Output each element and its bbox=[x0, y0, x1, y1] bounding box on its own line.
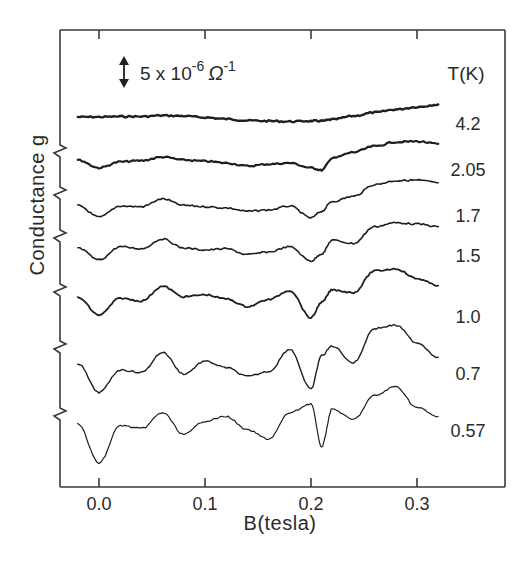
temperature-label: 1.7 bbox=[455, 206, 480, 226]
conductance-chart: 0.00.10.20.3 B(tesla) Conductance g 5 x … bbox=[0, 0, 529, 571]
temperature-label: 0.7 bbox=[455, 364, 480, 384]
arrow-down-icon bbox=[119, 79, 129, 88]
temperature-label: 2.05 bbox=[450, 160, 485, 180]
y-axis-label: Conductance g bbox=[26, 134, 48, 275]
curve-T-0_7 bbox=[78, 325, 438, 394]
curves bbox=[78, 105, 438, 464]
temperature-label: 4.2 bbox=[455, 114, 480, 134]
legend-title: T(K) bbox=[448, 63, 485, 84]
axis-ticks bbox=[99, 30, 417, 487]
x-axis-label: B(tesla) bbox=[244, 512, 317, 534]
scale-unit-exponent: -1 bbox=[223, 58, 236, 74]
curve-T-1_5 bbox=[78, 222, 438, 261]
chart-canvas: 0.00.10.20.3 B(tesla) Conductance g 5 x … bbox=[0, 0, 529, 571]
scale-bar-label: 5 x 10-6Ω-1 bbox=[140, 58, 236, 84]
scale-bar: 5 x 10-6Ω-1 bbox=[119, 56, 236, 88]
curve-T-1_0 bbox=[78, 269, 438, 319]
arrow-up-icon bbox=[119, 56, 129, 65]
x-tick-label: 0.0 bbox=[86, 494, 111, 514]
x-tick-label: 0.2 bbox=[298, 494, 323, 514]
curve-T-4_2 bbox=[78, 105, 438, 123]
curve-T-0_57 bbox=[78, 386, 438, 463]
plot-frame bbox=[54, 30, 505, 487]
temperature-label: 1.0 bbox=[455, 307, 480, 327]
x-tick-labels: 0.00.10.20.3 bbox=[86, 494, 429, 514]
x-tick-label: 0.3 bbox=[404, 494, 429, 514]
temperature-labels: 4.22.051.71.51.00.70.57 bbox=[450, 114, 485, 441]
curve-T-1_7 bbox=[78, 180, 438, 218]
curve-T-2_05 bbox=[78, 141, 438, 171]
x-tick-label: 0.1 bbox=[192, 494, 217, 514]
scale-base: 5 x 10 bbox=[140, 63, 192, 84]
left-axis-with-breaks bbox=[54, 30, 66, 487]
temperature-label: 1.5 bbox=[455, 246, 480, 266]
temperature-label: 0.57 bbox=[450, 421, 485, 441]
scale-exponent: -6 bbox=[192, 58, 205, 74]
scale-unit: Ω bbox=[208, 62, 223, 84]
